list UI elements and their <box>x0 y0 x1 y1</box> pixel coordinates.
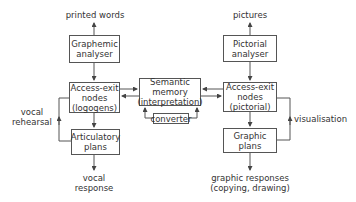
pictorial-nodes-box: Access-exit nodes (pictorial) <box>223 82 277 112</box>
label-line: (copying, drawing) <box>210 183 290 193</box>
label-line: graphic responses <box>210 173 290 183</box>
box-line: converter <box>150 114 191 124</box>
box-line: Access-exit <box>226 82 274 92</box>
graphemic-analyser-box: Graphemic analyser <box>69 35 120 63</box>
converter-box: converter <box>153 113 189 124</box>
graphic-responses-label: graphic responses (copying, drawing) <box>210 173 290 193</box>
box-line: (interpretation) <box>137 97 202 107</box>
box-line: analyser <box>232 49 268 59</box>
box-line: (pictorial) <box>229 102 270 112</box>
box-line: Graphic <box>233 131 266 141</box>
box-line: Graphemic <box>71 39 118 49</box>
box-line: Semantic <box>150 77 190 87</box>
box-line: (logogens) <box>72 103 117 113</box>
box-line: plans <box>239 141 262 151</box>
input-printed-words: printed words <box>60 10 130 20</box>
box-line: Pictorial <box>233 39 267 49</box>
label-line: vocal <box>70 173 118 183</box>
logogens-box: Access-exit nodes (logogens) <box>69 82 120 113</box>
vocal-response-label: vocal response <box>70 173 118 193</box>
semantic-memory-box: Semantic memory (interpretation) <box>139 78 201 106</box>
label-line: rehearsal <box>8 117 56 127</box>
box-line: analyser <box>76 49 112 59</box>
vocal-rehearsal-label: vocal rehearsal <box>8 107 56 127</box>
label-line: vocal <box>8 107 56 117</box>
label-line: response <box>70 183 118 193</box>
box-line: Access-exit <box>71 83 119 93</box>
input-pictures: pictures <box>220 10 280 20</box>
box-line: nodes <box>237 92 263 102</box>
visualisation-label: visualisation <box>294 114 347 124</box>
box-line: plans <box>84 142 107 152</box>
box-line: Articulatory <box>71 132 121 142</box>
articulatory-plans-box: Articulatory plans <box>71 129 120 155</box>
box-line: nodes <box>82 93 108 103</box>
pictorial-analyser-box: Pictorial analyser <box>223 35 277 62</box>
box-line: memory <box>152 87 188 97</box>
graphic-plans-box: Graphic plans <box>223 128 277 153</box>
